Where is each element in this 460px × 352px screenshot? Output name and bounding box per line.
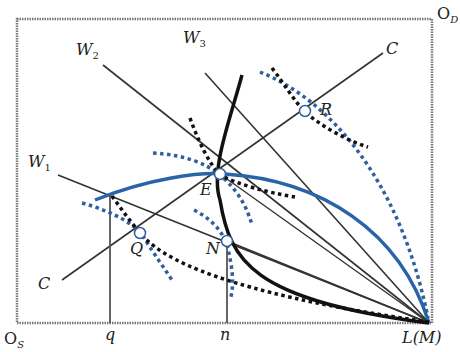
label-n: N <box>206 241 220 257</box>
label-os: OS <box>4 331 24 350</box>
label-e: E <box>200 182 212 198</box>
label-c-top: C <box>386 41 398 57</box>
point-e <box>215 169 226 180</box>
label-q: Q <box>130 241 143 257</box>
label-w1: W1 <box>28 154 51 173</box>
point-r <box>300 106 311 117</box>
point-n <box>222 236 233 247</box>
label-w2: W2 <box>76 42 99 61</box>
label-r: R <box>320 102 332 118</box>
blue-frontier-curve <box>95 174 429 323</box>
ray-e-l <box>220 174 429 323</box>
label-n-axis: n <box>220 327 230 343</box>
label-c-bottom: C <box>38 276 50 292</box>
ray-n-l <box>227 241 429 323</box>
label-od: OD <box>437 6 458 25</box>
label-w3: W3 <box>183 30 206 49</box>
label-lm: L(M) <box>402 330 442 346</box>
point-q <box>135 228 146 239</box>
line-w3 <box>205 73 429 323</box>
label-q-axis: q <box>105 327 115 343</box>
line-w2 <box>103 65 429 323</box>
